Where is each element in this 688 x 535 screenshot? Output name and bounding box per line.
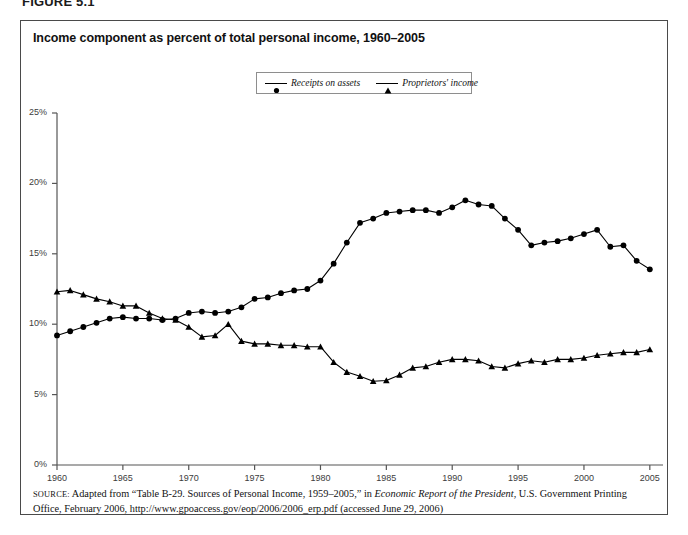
source-text-a: Adapted from “Table B-29. Sources of Per… xyxy=(70,488,375,499)
x-tick-label: 1960 xyxy=(37,473,77,483)
y-tick-label: 15% xyxy=(21,248,47,258)
triangle-marker-icon xyxy=(396,372,403,378)
circle-marker-icon xyxy=(489,203,495,209)
circle-marker-icon xyxy=(239,304,245,310)
x-tick-label: 2000 xyxy=(564,473,604,483)
source-note: SOURCE: Adapted from “Table B-29. Source… xyxy=(33,487,653,515)
circle-marker-icon xyxy=(304,286,310,292)
x-tick-label: 2005 xyxy=(630,473,670,483)
circle-marker-icon xyxy=(212,310,218,316)
circle-marker-icon xyxy=(542,240,548,246)
circle-marker-icon xyxy=(107,316,113,322)
source-text-italic: Economic Report of the President xyxy=(374,488,513,499)
y-tick-label: 20% xyxy=(21,177,47,187)
x-tick-label: 1985 xyxy=(366,473,406,483)
line-chart-plot xyxy=(0,0,688,535)
source-text-line2: February 2006, http://www.gpoaccess.gov/… xyxy=(64,503,443,514)
triangle-marker-icon xyxy=(146,310,153,316)
x-tick-label: 1990 xyxy=(432,473,472,483)
circle-marker-icon xyxy=(278,290,284,296)
y-tick-label: 5% xyxy=(21,389,47,399)
x-tick-label: 1995 xyxy=(498,473,538,483)
circle-marker-icon xyxy=(357,220,363,226)
x-tick-label: 1970 xyxy=(169,473,209,483)
circle-marker-icon xyxy=(502,216,508,222)
triangle-marker-icon xyxy=(185,324,192,330)
circle-marker-icon xyxy=(67,328,73,334)
circle-marker-icon xyxy=(344,240,350,246)
figure-page: FIGURE 5.1 Income component as percent o… xyxy=(0,0,688,535)
circle-marker-icon xyxy=(410,207,416,213)
circle-marker-icon xyxy=(607,244,613,250)
circle-marker-icon xyxy=(515,227,521,233)
circle-marker-icon xyxy=(120,314,126,320)
circle-marker-icon xyxy=(634,258,640,264)
series-line-proprietors-income xyxy=(57,290,650,381)
circle-marker-icon xyxy=(647,266,653,272)
triangle-marker-icon xyxy=(225,321,232,327)
circle-marker-icon xyxy=(133,316,139,322)
y-tick-label: 10% xyxy=(21,318,47,328)
circle-marker-icon xyxy=(423,207,429,213)
x-tick-label: 1980 xyxy=(300,473,340,483)
circle-marker-icon xyxy=(331,261,337,267)
circle-marker-icon xyxy=(80,324,86,330)
circle-marker-icon xyxy=(594,227,600,233)
triangle-marker-icon xyxy=(647,346,654,352)
x-tick-label: 1975 xyxy=(235,473,275,483)
circle-marker-icon xyxy=(383,210,389,216)
y-tick-label: 0% xyxy=(21,459,47,469)
circle-marker-icon xyxy=(225,309,231,315)
circle-marker-icon xyxy=(265,295,271,301)
circle-marker-icon xyxy=(318,278,324,284)
circle-marker-icon xyxy=(94,320,100,326)
x-tick-label: 1965 xyxy=(103,473,143,483)
circle-marker-icon xyxy=(199,309,205,315)
circle-marker-icon xyxy=(621,242,627,248)
circle-marker-icon xyxy=(186,310,192,316)
circle-marker-icon xyxy=(436,210,442,216)
circle-marker-icon xyxy=(146,316,152,322)
circle-marker-icon xyxy=(568,235,574,241)
source-prefix: SOURCE: xyxy=(33,490,70,499)
circle-marker-icon xyxy=(252,296,258,302)
circle-marker-icon xyxy=(370,216,376,222)
circle-marker-icon xyxy=(555,238,561,244)
circle-marker-icon xyxy=(476,202,482,208)
circle-marker-icon xyxy=(581,231,587,237)
circle-marker-icon xyxy=(397,209,403,215)
circle-marker-icon xyxy=(449,204,455,210)
circle-marker-icon xyxy=(54,333,60,339)
series-line-receipts-on-assets xyxy=(57,200,650,335)
circle-marker-icon xyxy=(462,197,468,203)
circle-marker-icon xyxy=(291,288,297,294)
circle-marker-icon xyxy=(528,242,534,248)
y-tick-label: 25% xyxy=(21,107,47,117)
